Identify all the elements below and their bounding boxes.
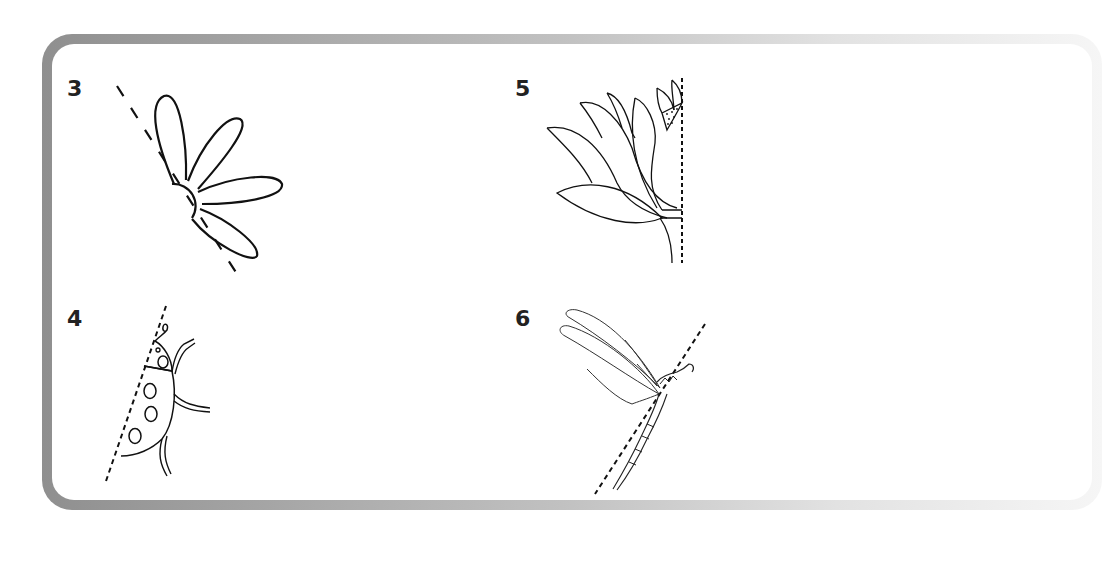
exercise-number: 4 (67, 308, 82, 330)
exercise-number: 5 (515, 78, 530, 100)
ladybug-half-drawing (102, 294, 302, 494)
mirror-line (105, 306, 166, 484)
worksheet-frame: 3 4 (42, 34, 1102, 510)
mirror-line (595, 324, 705, 494)
exercise-number: 6 (515, 308, 530, 330)
flower-half-drawing (102, 64, 302, 304)
mirror-line (117, 86, 237, 274)
lotus-half-drawing (547, 68, 747, 268)
exercise-number: 3 (67, 78, 82, 100)
dragonfly-half-drawing (547, 294, 747, 514)
worksheet-panel: 3 4 (52, 44, 1092, 500)
